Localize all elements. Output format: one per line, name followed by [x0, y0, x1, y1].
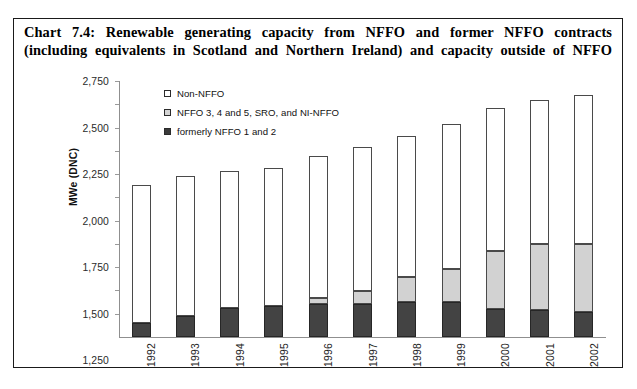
y-axis-tick-label: 2,500 [82, 122, 109, 133]
bar-segment [176, 316, 195, 337]
bar-column [220, 81, 239, 337]
bar-column [574, 81, 593, 337]
bar-segment [176, 176, 195, 316]
bar-segment [530, 244, 549, 310]
stacked-bar [309, 81, 328, 337]
y-axis-tick-mark: 250 [115, 314, 119, 315]
bar-segment [530, 310, 549, 337]
y-axis-tick-mark: 750 [115, 267, 119, 268]
stacked-bar [397, 81, 416, 337]
bar-column [264, 81, 283, 337]
y-axis-tick-label: 1,750 [82, 262, 109, 273]
y-axis-tick-mark: 2,750 [115, 81, 119, 82]
stacked-bar [176, 81, 195, 337]
bar-segment [397, 302, 416, 337]
stacked-bar [353, 81, 372, 337]
bar-column [176, 81, 195, 337]
y-axis-tick-label: 1,250 [82, 355, 109, 366]
bar-segment [486, 108, 505, 251]
y-axis-tick-mark: 1,500 [115, 197, 119, 198]
bar-column [530, 81, 549, 337]
stacked-bar [574, 81, 593, 337]
x-axis-label: 1998 [412, 343, 423, 367]
bar-segment [353, 304, 372, 338]
bar-segment [574, 95, 593, 244]
y-axis-tick-mark: 2,000 [115, 151, 119, 152]
y-axis-tick-mark: 2,500 [115, 104, 119, 105]
x-axis-label: 2002 [589, 343, 600, 367]
y-axis-line [119, 81, 120, 337]
x-axis-label: 1995 [279, 343, 290, 367]
y-axis-tick-mark: 500 [115, 290, 119, 291]
x-axis-label: 2001 [545, 343, 556, 367]
bar-column [397, 81, 416, 337]
stacked-bar [530, 81, 549, 337]
bar-segment [486, 309, 505, 337]
chart-title-line-2: (including equivalents in Scotland and N… [24, 41, 612, 59]
x-axis-label: 1992 [146, 343, 157, 367]
bar-segment [397, 277, 416, 302]
bar-segment [132, 185, 151, 323]
bar-segment [264, 306, 283, 337]
bar-segment [530, 100, 549, 244]
bar-segment [220, 308, 239, 337]
bar-segment [353, 147, 372, 291]
bar-column [132, 81, 151, 337]
chart-title-line-1: Chart 7.4: Renewable generating capacity… [24, 24, 612, 40]
y-axis-tick-mark: 1,750 [115, 174, 119, 175]
y-axis-tick-label: 1,500 [82, 308, 109, 319]
bar-segment [309, 298, 328, 305]
chart-title: Chart 7.4: Renewable generating capacity… [24, 23, 612, 59]
x-axis-label: 1996 [323, 343, 334, 367]
bar-segment [442, 302, 461, 337]
bar-segment [442, 124, 461, 269]
bar-segment [574, 312, 593, 337]
bar-column [442, 81, 461, 337]
bar-segment [264, 168, 283, 307]
bar-segment [574, 244, 593, 312]
x-axis-label: 1997 [368, 343, 379, 367]
plot-area: 2,7502,5002,2502,0001,7501,5001,2501,000… [119, 81, 606, 337]
x-axis-label: 2000 [500, 343, 511, 367]
x-axis-label: 1999 [456, 343, 467, 367]
bar-segment [309, 304, 328, 337]
x-axis-label: 1993 [190, 343, 201, 367]
bar-segment [353, 291, 372, 303]
y-axis-tick-mark: 1,000 [115, 244, 119, 245]
bar-column [309, 81, 328, 337]
bar-segment [486, 251, 505, 309]
y-axis-tick-mark: 2,250 [115, 128, 119, 129]
chart-figure-frame: Chart 7.4: Renewable generating capacity… [13, 18, 623, 368]
stacked-bar [220, 81, 239, 337]
bar-column [486, 81, 505, 337]
bar-segment [132, 323, 151, 337]
y-axis-tick-label: 2,000 [82, 215, 109, 226]
y-axis-tick-mark: 1,250 [115, 221, 119, 222]
y-axis-tick-label: 2,750 [82, 76, 109, 87]
stacked-bar [132, 81, 151, 337]
bar-segment [220, 171, 239, 308]
bar-segment [442, 269, 461, 302]
bar-segment [397, 136, 416, 277]
x-axis-label: 1994 [235, 343, 246, 367]
stacked-bar [486, 81, 505, 337]
x-axis-line [119, 337, 606, 338]
y-axis-tick-label: 2,250 [82, 169, 109, 180]
bar-segment [309, 156, 328, 297]
y-axis-title: MWe (DNC) [68, 148, 79, 206]
stacked-bar [442, 81, 461, 337]
stacked-bar [264, 81, 283, 337]
bar-column [353, 81, 372, 337]
